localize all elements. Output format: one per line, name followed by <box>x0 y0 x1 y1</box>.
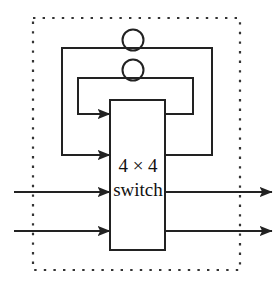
diagram-canvas: 4 × 4 switch <box>0 0 278 286</box>
switch-diagram-svg: 4 × 4 switch <box>0 0 278 286</box>
switch-label-line-1: 4 × 4 <box>118 155 158 176</box>
switch-label-line-2: switch <box>113 179 163 200</box>
